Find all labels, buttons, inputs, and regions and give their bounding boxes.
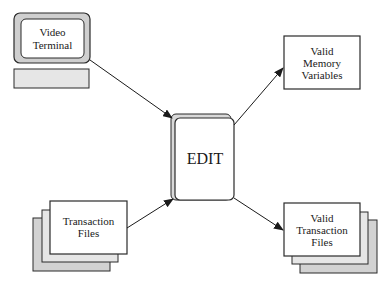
video-terminal-node: Video Terminal [14, 13, 90, 88]
valid-transaction-files-label-line1: Valid [310, 212, 334, 224]
edit-label: EDIT [187, 150, 224, 167]
arrow-edit-to-valid-transaction-files [234, 198, 283, 230]
transaction-files-node: Transaction Files [33, 201, 127, 271]
arrow-transaction-files-to-edit [127, 199, 173, 228]
video-terminal-label-line2: Terminal [33, 39, 73, 51]
valid-memory-variables-label-line2: Memory [303, 57, 341, 69]
video-terminal-label-line1: Video [39, 26, 66, 38]
arrow-edit-to-valid-memory-variables [234, 68, 283, 125]
valid-transaction-files-label-line3: Files [311, 236, 332, 248]
transaction-files-label-line2: Files [78, 227, 99, 239]
edit-data-flow-diagram: Video Terminal EDIT Valid Memory Variabl… [0, 0, 389, 285]
valid-transaction-files-node: Valid Transaction Files [284, 203, 377, 273]
monitor-base [14, 69, 89, 88]
valid-memory-variables-label-line1: Valid [310, 45, 334, 57]
transaction-files-label-line1: Transaction [63, 215, 115, 227]
valid-memory-variables-label-line3: Variables [302, 69, 343, 81]
valid-memory-variables-node: Valid Memory Variables [284, 36, 360, 89]
arrow-video-terminal-to-edit [90, 60, 172, 118]
valid-transaction-files-label-line2: Transaction [296, 224, 348, 236]
edit-node: EDIT [171, 114, 234, 200]
